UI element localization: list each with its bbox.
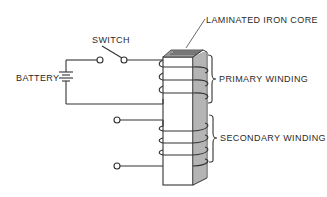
primary-label: PRIMARY WINDING <box>219 74 308 84</box>
switch-blade <box>102 46 122 58</box>
switch-label: SWITCH <box>92 35 130 45</box>
secondary-terminal-bottom[interactable] <box>114 163 120 169</box>
primary-brace <box>208 55 216 103</box>
switch-contact-right <box>121 57 127 63</box>
secondary-terminal-top[interactable] <box>114 117 120 123</box>
transformer-diagram: LAMINATED IRON CORE BATTERY SWITCH PRIMA… <box>0 0 327 197</box>
secondary-label: SECONDARY WINDING <box>220 133 326 143</box>
battery-label: BATTERY <box>16 73 59 83</box>
battery-symbol <box>59 60 73 104</box>
switch-contact-left <box>97 57 103 63</box>
core-label: LAMINATED IRON CORE <box>206 15 318 25</box>
core-leader-line <box>186 19 205 48</box>
secondary-brace <box>209 115 217 162</box>
